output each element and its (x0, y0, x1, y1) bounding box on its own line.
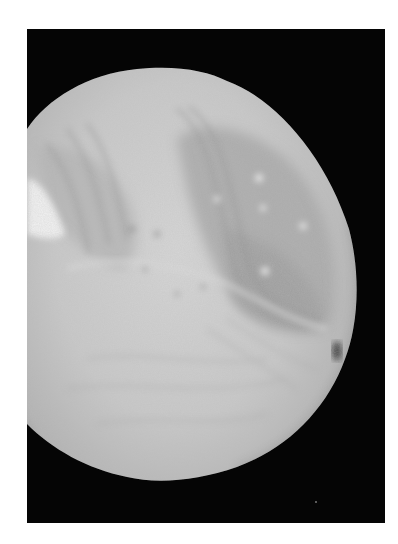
photo-frame: Grayscale photograph of a cratered, groo… (27, 29, 385, 523)
star (315, 501, 317, 503)
moon-surface (27, 29, 385, 523)
moon-photo (27, 29, 385, 523)
